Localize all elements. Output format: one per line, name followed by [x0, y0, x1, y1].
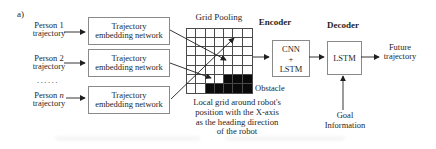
grid-cell	[224, 47, 233, 56]
decoder-lstm-box: LSTM	[327, 41, 362, 75]
person2-trajectory: trajectory	[26, 62, 72, 70]
grid-cell	[187, 56, 196, 65]
grid-cell	[215, 47, 224, 56]
grid-cell	[233, 47, 242, 56]
grid-cell	[187, 75, 196, 84]
embedding-network-box-3: Trajectory embedding network	[88, 86, 170, 114]
decoder-title: Decoder	[322, 20, 364, 30]
person1-trajectory: trajectory	[26, 29, 72, 37]
obstacle-cell	[215, 84, 224, 93]
grid-cell	[187, 84, 196, 93]
grid-cell	[196, 47, 205, 56]
scan-artifact	[55, 136, 200, 141]
decoder-box-label: LSTM	[333, 53, 356, 63]
grid-cell	[243, 56, 252, 65]
grid-cell	[243, 38, 252, 47]
grid-cell	[233, 29, 242, 38]
grid-cell	[206, 75, 215, 84]
grid-cell	[206, 47, 215, 56]
grid-cell	[224, 38, 233, 47]
grid-cell	[206, 66, 215, 75]
ellipsis-dots: ......	[37, 75, 59, 85]
person-n-label: Person n trajectory	[26, 91, 72, 107]
grid-cell	[224, 66, 233, 75]
embedding-network-box-2: Trajectory embedding network	[88, 49, 170, 77]
grid-caption: Local grid around robot's position with …	[181, 98, 293, 137]
future-trajectory-label: Future trajectory	[378, 43, 422, 61]
grid-cell	[243, 66, 252, 75]
encoder-box-line1: CNN	[282, 44, 300, 54]
future-line2: trajectory	[378, 52, 422, 61]
encoder-box-line3: LSTM	[280, 64, 303, 74]
grid-cell	[196, 56, 205, 65]
obstacle-cell	[224, 75, 233, 84]
grid-cell	[187, 38, 196, 47]
grid-cell	[196, 29, 205, 38]
grid-cell	[196, 38, 205, 47]
grid-cell	[243, 29, 252, 38]
person-n-trajectory: trajectory	[26, 99, 72, 107]
grid-pooling-grid	[186, 28, 253, 94]
encoder-title: Encoder	[254, 17, 296, 27]
grid-cell	[187, 66, 196, 75]
grid-cell	[206, 56, 215, 65]
grid-cell	[206, 38, 215, 47]
figure-label: a)	[17, 9, 24, 19]
scan-artifact	[225, 136, 345, 141]
figure-canvas: a) Person 1 trajectory Person 2 trajecto…	[0, 0, 436, 149]
obstacle-cell	[243, 75, 252, 84]
grid-cell	[196, 84, 205, 93]
grid-cell	[196, 66, 205, 75]
obstacle-cell	[206, 84, 215, 93]
grid-cell	[224, 56, 233, 65]
obstacle-cell	[224, 84, 233, 93]
grid-cell	[187, 29, 196, 38]
person2-label: Person 2 trajectory	[26, 54, 72, 70]
embedding-box-1-line2: embedding network	[95, 31, 163, 41]
grid-cell	[233, 66, 242, 75]
grid-cell	[215, 75, 224, 84]
grid-cell	[215, 38, 224, 47]
embedding-network-box-1: Trajectory embedding network	[88, 17, 170, 45]
grid-cell	[206, 29, 215, 38]
grid-cell	[224, 29, 233, 38]
grid-cell	[243, 47, 252, 56]
grid-cell	[187, 47, 196, 56]
embedding-box-3-line2: embedding network	[95, 100, 163, 110]
obstacle-label: Obstacle	[255, 83, 285, 93]
person1-label: Person 1 trajectory	[26, 21, 72, 37]
grid-cell	[233, 38, 242, 47]
grid-cell	[233, 56, 242, 65]
encoder-box-line2: +	[289, 54, 294, 64]
obstacle-cell	[233, 75, 242, 84]
encoder-cnn-lstm-box: CNN + LSTM	[272, 40, 310, 77]
obstacle-cell	[233, 84, 242, 93]
grid-cell	[196, 75, 205, 84]
embedding-box-2-line2: embedding network	[95, 63, 163, 73]
goal-line2: Information	[320, 121, 370, 131]
grid-cell	[215, 66, 224, 75]
goal-information-label: Goal Information	[320, 111, 370, 130]
grid-pooling-title: Grid Pooling	[184, 12, 254, 22]
grid-cell	[215, 56, 224, 65]
grid-cell	[215, 29, 224, 38]
obstacle-cell	[243, 84, 252, 93]
